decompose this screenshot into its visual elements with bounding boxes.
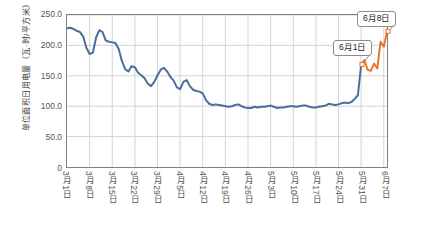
x-tick-label: 5月3日	[265, 171, 277, 199]
x-tick-label: 4月26日	[242, 171, 254, 204]
series-line	[67, 28, 361, 108]
x-tick-label: 3月8日	[83, 171, 95, 199]
gridlines	[67, 15, 387, 167]
annotation-callout: 6月8日	[357, 11, 396, 27]
x-tick-label: 5月17日	[310, 171, 322, 204]
x-tick-label: 4月12日	[197, 171, 209, 204]
y-tick-label: 100.0	[41, 101, 62, 111]
chart-container: 单位面积日用电量（瓦·时/平方米） 050.0100.0150.0200.025…	[0, 0, 421, 231]
x-tick-label: 6月7日	[379, 171, 391, 199]
x-tick-label: 5月31日	[356, 171, 368, 204]
x-tick-label: 5月10日	[288, 171, 300, 204]
x-axis-tick-labels: 3月1日3月8日3月15日3月22日3月29日4月5日4月12日4月19日4月2…	[66, 171, 388, 229]
y-tick-label: 150.0	[41, 71, 62, 81]
x-tick-label: 3月15日	[106, 171, 118, 204]
annotation-callout: 6月1日	[333, 40, 372, 56]
x-tick-label: 4月5日	[174, 171, 186, 199]
x-tick-label: 3月1日	[60, 171, 72, 199]
chart-svg	[67, 15, 387, 167]
y-tick-label: 250.0	[41, 9, 62, 19]
y-tick-label: 50.0	[45, 132, 62, 142]
y-axis-tick-labels: 050.0100.0150.0200.0250.0	[26, 10, 62, 168]
x-tick-label: 4月19日	[219, 171, 231, 204]
x-tick-label: 3月29日	[151, 171, 163, 204]
x-tick-label: 3月22日	[128, 171, 140, 204]
y-tick-label: 200.0	[41, 40, 62, 50]
x-tick-label: 5月24日	[333, 171, 345, 204]
plot-area	[66, 14, 388, 168]
